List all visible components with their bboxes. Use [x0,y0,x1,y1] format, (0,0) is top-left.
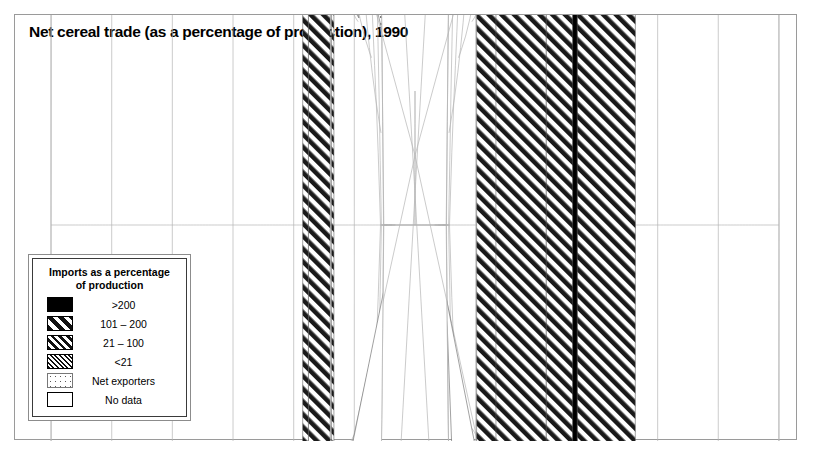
legend-item: No data [33,390,186,409]
legend-swatch-dots [47,373,73,388]
legend-label: >200 [73,299,186,311]
legend-label: 21 – 100 [73,337,186,349]
region-northern-south-america [308,15,333,441]
legend-heading-line1: Imports as a percentage [49,266,170,278]
legend-swatch-hatch-wide [47,316,73,331]
legend-swatch-hatch-fine [47,354,73,369]
legend-label: <21 [73,356,186,368]
legend-item: 101 – 200 [33,314,186,333]
legend-item: <21 [33,352,186,371]
map-legend: Imports as a percentage of production >2… [28,254,191,421]
map-figure-frame: Net cereal trade (as a percentage of pro… [14,14,797,440]
legend-item: >200 [33,295,186,314]
legend-label: Net exporters [73,375,186,387]
legend-swatch-solid [47,297,73,312]
legend-label: No data [73,394,186,406]
legend-heading-line2: of production [76,279,144,291]
legend-heading: Imports as a percentage of production [41,266,178,291]
legend-item: Net exporters [33,371,186,390]
region-sudan-east [496,15,555,441]
legend-items: >200101 – 20021 – 100<21Net exportersNo … [33,295,186,409]
legend-label: 101 – 200 [73,318,186,330]
legend-swatch-none [47,392,73,407]
legend-swatch-hatch-med [47,335,73,350]
legend-item: 21 – 100 [33,333,186,352]
legend-inner-border: Imports as a percentage of production >2… [32,258,187,417]
